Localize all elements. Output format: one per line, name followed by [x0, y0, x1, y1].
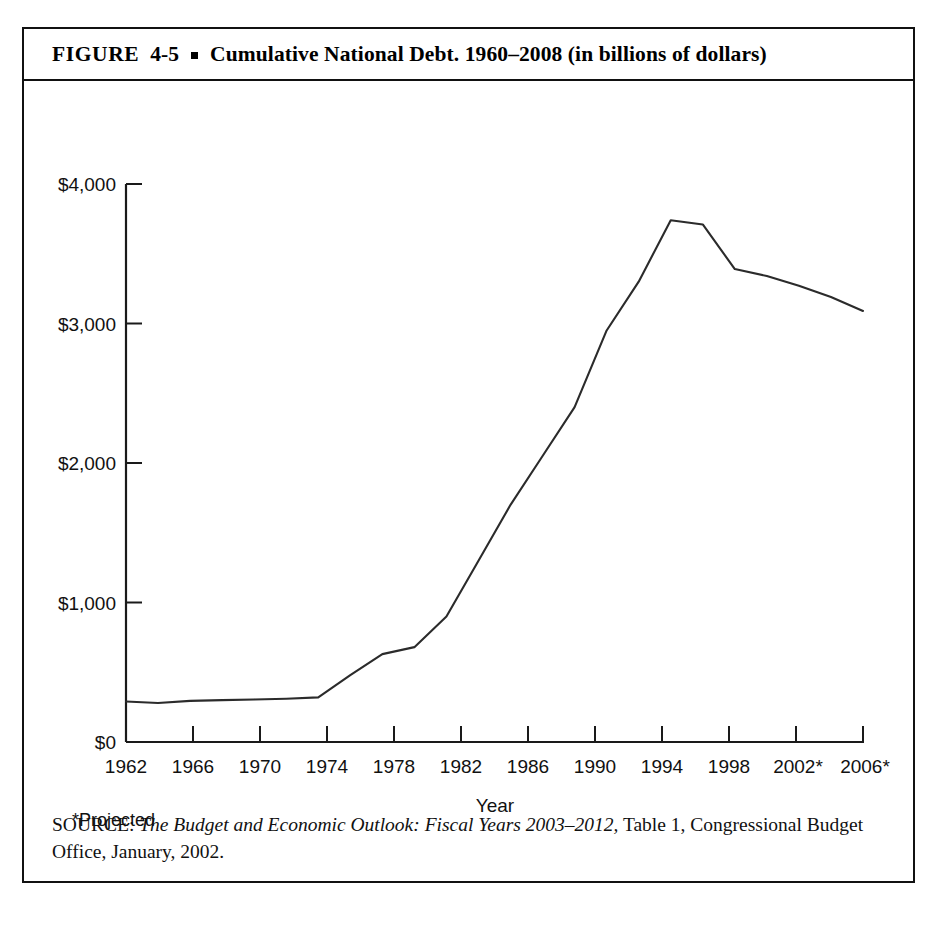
- x-tick-label-1998: 1998: [708, 756, 750, 777]
- chart-plot-area: $4,000 $3,000 $2,000 $1,000 $0: [24, 81, 913, 881]
- x-tick-label-1970: 1970: [239, 756, 281, 777]
- x-tick-label-1994: 1994: [641, 756, 684, 777]
- x-tick-label-1990: 1990: [574, 756, 616, 777]
- y-axis-tick-labels: $4,000 $3,000 $2,000 $1,000 $0: [58, 174, 116, 753]
- y-tick-label-3000: $3,000: [58, 314, 116, 335]
- source-prefix: SOURCE:: [52, 814, 134, 835]
- y-tick-label-4000: $4,000: [58, 174, 116, 195]
- x-axis-tick-labels: 1962 1966 1970 1974 1978 1982 1986 1990 …: [105, 756, 891, 777]
- x-tick-label-1974: 1974: [306, 756, 349, 777]
- square-bullet-icon: [191, 52, 198, 59]
- y-tick-label-2000: $2,000: [58, 453, 116, 474]
- source-line: SOURCE: The Budget and Economic Outlook:…: [52, 811, 883, 865]
- x-tick-label-2006: 2006*: [840, 756, 890, 777]
- x-tick-label-1966: 1966: [172, 756, 214, 777]
- x-tick-label-1986: 1986: [507, 756, 549, 777]
- figure-container: FIGURE 4-5 Cumulative National Debt. 196…: [22, 27, 915, 883]
- x-tick-label-1962: 1962: [105, 756, 147, 777]
- debt-series-line: [126, 220, 863, 703]
- x-tick-label-2002: 2002*: [773, 756, 823, 777]
- y-tick-label-1000: $1,000: [58, 593, 116, 614]
- figure-number: 4-5: [150, 42, 179, 66]
- source-title-italic: The Budget and Economic Outlook: Fiscal …: [139, 814, 618, 835]
- figure-label: FIGURE: [52, 42, 139, 66]
- source-block: SOURCE: The Budget and Economic Outlook:…: [24, 811, 913, 881]
- y-tick-label-0: $0: [95, 732, 116, 753]
- x-tick-label-1982: 1982: [440, 756, 482, 777]
- figure-title-text: Cumulative National Debt. 1960–2008 (in …: [210, 42, 767, 66]
- line-chart-svg: $4,000 $3,000 $2,000 $1,000 $0: [24, 81, 913, 881]
- y-axis-ticks: [126, 184, 142, 742]
- page-title: FIGURE 4-5 Cumulative National Debt. 196…: [52, 42, 767, 67]
- x-tick-label-1978: 1978: [373, 756, 415, 777]
- x-axis-ticks: [126, 726, 863, 742]
- figure-title-band: FIGURE 4-5 Cumulative National Debt. 196…: [24, 29, 913, 81]
